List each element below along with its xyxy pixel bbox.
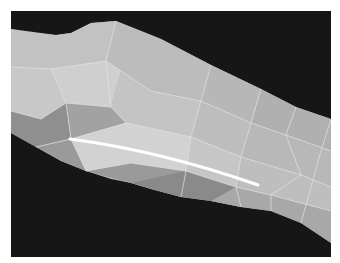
mesh-render	[11, 11, 331, 257]
render-viewport	[11, 11, 331, 257]
